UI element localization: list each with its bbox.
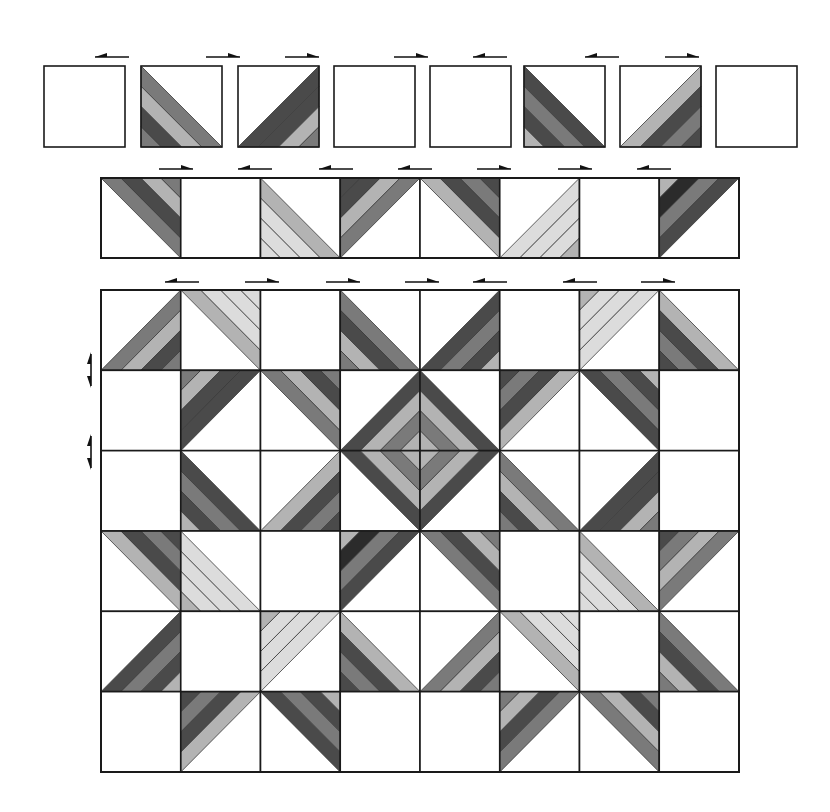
grid-cell-r5-c7 xyxy=(580,611,660,691)
grid-cell-r4-c3 xyxy=(261,531,341,611)
grid-cell-r6-c6 xyxy=(500,692,580,772)
grid-cell-r2-c7 xyxy=(580,370,660,450)
grid-cell-r4-c1 xyxy=(101,531,181,611)
arrow-right-icon xyxy=(228,53,240,57)
row-cell-4 xyxy=(340,178,420,258)
arrow-up-icon xyxy=(87,352,91,364)
grid-cell-r6-c8 xyxy=(659,692,739,772)
arrow-down-icon xyxy=(87,458,91,470)
row-cell-7 xyxy=(580,178,660,258)
grid-cell-r3-c3 xyxy=(261,451,341,531)
grid-cell-r3-c2 xyxy=(181,451,261,531)
grid-cell-r2-c6 xyxy=(500,370,580,450)
unit-square-8 xyxy=(716,66,797,147)
grid-cell-r1-c7 xyxy=(580,290,660,370)
grid-cell-r2-c2 xyxy=(181,370,261,450)
unit-square-7 xyxy=(620,66,701,147)
row-cell-1 xyxy=(101,178,181,258)
arrow-up-icon xyxy=(87,434,91,446)
step-2-joined-row xyxy=(101,178,739,258)
grid-cell-r1-c4 xyxy=(340,290,420,370)
row-cell-2 xyxy=(181,178,261,258)
grid-cell-r1-c6 xyxy=(500,290,580,370)
grid-cell-r1-c1 xyxy=(101,290,181,370)
grid-cell-r5-c3 xyxy=(261,611,341,691)
step-3-assembled-grid xyxy=(101,290,739,772)
grid-cell-r6-c3 xyxy=(261,692,341,772)
row-cell-8 xyxy=(659,178,739,258)
grid-cell-r6-c5 xyxy=(420,692,500,772)
grid-cell-r5-c4 xyxy=(340,611,420,691)
grid-cell-r3-c6 xyxy=(500,451,580,531)
grid-cell-r4-c7 xyxy=(580,531,660,611)
grid-cell-r6-c2 xyxy=(181,692,261,772)
grid-cell-r1-c8 xyxy=(659,290,739,370)
step-1-units-row xyxy=(44,66,797,147)
row-cell-5 xyxy=(420,178,500,258)
arrow-left-icon xyxy=(95,53,107,57)
grid-cell-r6-c1 xyxy=(101,692,181,772)
grid-cell-r5-c6 xyxy=(500,611,580,691)
grid-cell-r6-c7 xyxy=(580,692,660,772)
unit-square-2 xyxy=(141,66,222,147)
grid-cell-r6-c4 xyxy=(340,692,420,772)
grid-cell-r3-c4 xyxy=(340,451,420,531)
row-cell-6 xyxy=(500,178,580,258)
quilt-diagram xyxy=(0,0,830,812)
unit-square-3 xyxy=(238,66,319,147)
grid-cell-r1-c3 xyxy=(261,290,341,370)
grid-cell-r5-c1 xyxy=(101,611,181,691)
grid-cell-r3-c8 xyxy=(659,451,739,531)
grid-cell-r3-c5 xyxy=(420,451,500,531)
grid-cell-r2-c3 xyxy=(261,370,341,450)
grid-cell-r4-c5 xyxy=(420,531,500,611)
grid-cell-r3-c7 xyxy=(580,451,660,531)
unit-square-6 xyxy=(524,66,605,147)
grid-cell-r5-c5 xyxy=(420,611,500,691)
grid-cell-r4-c4 xyxy=(340,531,420,611)
grid-cell-r1-c5 xyxy=(420,290,500,370)
grid-cell-r2-c8 xyxy=(659,370,739,450)
grid-cell-r4-c8 xyxy=(659,531,739,611)
grid-cell-r4-c2 xyxy=(181,531,261,611)
grid-cell-r2-c5 xyxy=(420,370,500,450)
arrow-down-icon xyxy=(87,376,91,388)
grid-cell-r1-c2 xyxy=(181,290,261,370)
unit-square-5 xyxy=(430,66,511,147)
grid-cell-r4-c6 xyxy=(500,531,580,611)
grid-cell-r2-c4 xyxy=(340,370,420,450)
grid-cell-r5-c2 xyxy=(181,611,261,691)
unit-square-1 xyxy=(44,66,125,147)
grid-cell-r5-c8 xyxy=(659,611,739,691)
row-cell-3 xyxy=(261,178,341,258)
unit-square-4 xyxy=(334,66,415,147)
grid-cell-r2-c1 xyxy=(101,370,181,450)
grid-cell-r3-c1 xyxy=(101,451,181,531)
